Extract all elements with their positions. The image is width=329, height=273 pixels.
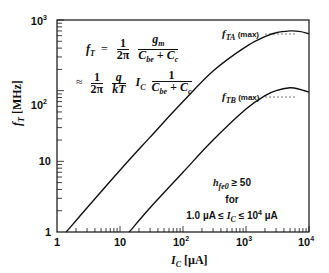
equation-line-2: ≈ 12π qkT IC 1Cbe + Cc [76,70,195,97]
y-tick-label-10: 10 [39,155,51,167]
equation-line-1: fT = 12π gmCbe + Cc [86,34,181,66]
y-tick-label-1000: 103 [31,14,47,27]
ftb-max-label: fTB (max) [222,90,259,105]
fta-max-label: fTA (max) [222,27,259,42]
x-tick-label-10000: 104 [298,235,314,248]
x-tick-label-10: 10 [114,236,126,248]
y-tick-label-100: 102 [31,98,47,111]
x-tick-label-1000: 103 [236,235,252,248]
y-minor-ticks [57,20,64,211]
condition-note: hfe0 ≥ 50 for 1.0 µA ≤ IC ≤ 104 µA [167,176,297,226]
y-axis-label: fT [MHz] [10,80,26,126]
x-axis-label: IC [µA] [171,253,208,269]
note-line-hfe: hfe0 ≥ 50 [167,176,297,193]
note-line-for: for [167,193,297,206]
x-tick-label-100: 102 [173,235,189,248]
note-line-range: 1.0 µA ≤ IC ≤ 104 µA [167,206,297,226]
x-tick-label-1: 1 [54,236,60,248]
y-tick-label-1: 1 [45,226,51,238]
x-minor-ticks [76,226,309,232]
